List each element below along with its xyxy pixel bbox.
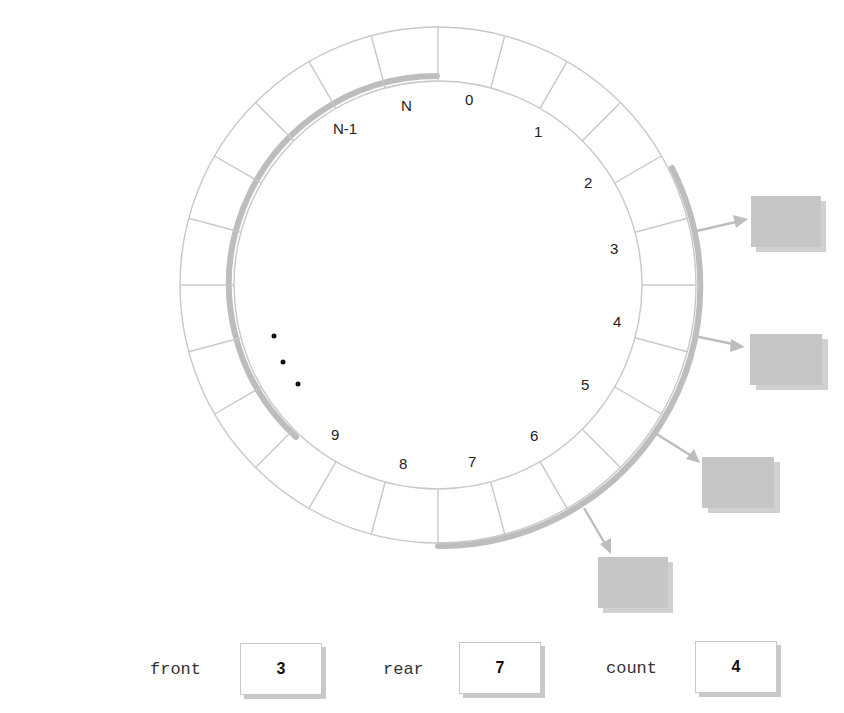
slot-divider: [615, 387, 662, 414]
queue-element-slot-5: [702, 457, 780, 513]
slot-divider: [615, 156, 662, 183]
slot-divider: [309, 462, 336, 509]
slot-divider: [635, 338, 687, 352]
count-value-box: 4: [695, 641, 777, 693]
slot-divider: [189, 338, 241, 352]
slot-label-6: 6: [530, 427, 538, 444]
slot-divider: [256, 429, 294, 467]
slot-divider: [582, 429, 620, 467]
queue-element-slot-6: [598, 557, 673, 613]
front-label: front: [150, 660, 201, 679]
circular-queue-diagram: N 0 1 2 3 4 5 6 7 8 9 N-1: [0, 0, 844, 713]
slot-label-0: 0: [465, 91, 473, 108]
slot-divider: [309, 62, 336, 109]
queue-element-slot-4: [750, 334, 828, 390]
slot-divider: [215, 156, 262, 183]
slot-divider: [491, 482, 505, 534]
slot-divider: [189, 218, 241, 232]
slot-divider: [540, 62, 567, 109]
slot-labels: N 0 1 2 3 4 5 6 7 8 9 N-1: [331, 91, 621, 472]
wrap-arc: [229, 76, 700, 546]
slot-label-7: 7: [468, 453, 476, 470]
queue-elements: [598, 196, 828, 613]
slot-label-8: 8: [399, 455, 407, 472]
slot-divider: [371, 36, 385, 88]
rear-label: rear: [383, 660, 424, 679]
slot-label-1: 1: [534, 123, 542, 140]
slot-divider: [256, 103, 294, 141]
count-value: 4: [732, 658, 741, 676]
slot-divider: [540, 462, 567, 509]
slot-label-2: 2: [584, 174, 592, 191]
slot-label-3: 3: [610, 240, 618, 257]
slot-dividers: [180, 27, 696, 543]
count-label: count: [606, 659, 657, 678]
slot-label-5: 5: [581, 376, 589, 393]
slot-divider: [582, 103, 620, 141]
ring: [180, 27, 696, 543]
queue-element-slot-3: [751, 196, 826, 252]
slot-divider: [635, 218, 687, 232]
slot-label-4: 4: [613, 313, 621, 330]
ellipsis-dots: [272, 334, 301, 387]
slot-divider: [491, 36, 505, 88]
rear-value: 7: [496, 659, 505, 677]
slot-label-9: 9: [331, 426, 339, 443]
rear-value-box: 7: [459, 642, 541, 694]
front-value-box: 3: [240, 643, 322, 695]
slot-divider: [371, 482, 385, 534]
ring-inner: [234, 81, 642, 489]
front-value: 3: [277, 660, 286, 678]
slot-divider: [215, 387, 262, 414]
slot-label-N: N: [401, 97, 412, 114]
slot-label-N-1: N-1: [333, 120, 357, 137]
